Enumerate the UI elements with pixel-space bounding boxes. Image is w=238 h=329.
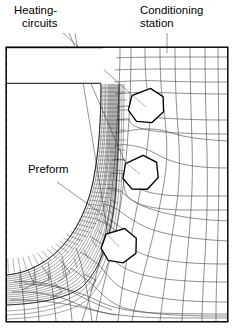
fem-mesh-figure: Heating- circuits Conditioning station P… [0,0,238,329]
cavity-block [6,48,104,84]
conditioning-station-label-line2: station [140,17,174,29]
heating-circuit-3[interactable] [101,229,136,263]
cavity-block-fill [7,48,104,84]
conditioning-station-label-line1: Conditioning [140,4,203,16]
heating-circuits-label-line2: circuits [22,17,58,29]
label-preform: Preform [28,163,69,175]
heating-circuit-3-outline[interactable] [101,229,136,263]
preform-label: Preform [28,163,69,175]
heating-circuits-label-line1: Heating- [14,4,57,16]
diagram-canvas: Heating- circuits Conditioning station P… [0,0,238,329]
